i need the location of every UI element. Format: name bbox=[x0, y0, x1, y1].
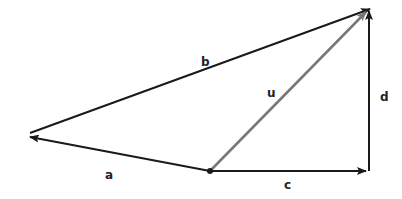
vector-diagram: abcdu bbox=[0, 0, 402, 199]
vector-u-arrow bbox=[210, 12, 366, 171]
vector-c-label: c bbox=[284, 178, 291, 192]
vector-a-label: a bbox=[105, 168, 113, 182]
vector-u-label: u bbox=[267, 86, 276, 100]
vector-d-label: d bbox=[380, 90, 389, 104]
vector-a-arrow bbox=[30, 137, 210, 171]
vector-b-arrow bbox=[30, 9, 370, 133]
vector-b-label: b bbox=[201, 55, 210, 69]
origin-point bbox=[207, 168, 213, 174]
